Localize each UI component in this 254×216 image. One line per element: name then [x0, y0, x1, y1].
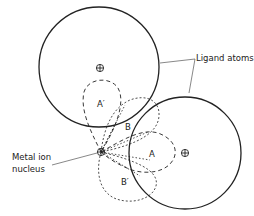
ligand-atoms-label: Ligand atoms — [196, 53, 254, 63]
metal-ion-label-line2: nucleus — [12, 164, 45, 174]
orbital-a-prime — [83, 80, 121, 152]
orbital-a-prime-label: A′ — [97, 99, 105, 109]
orbital-a — [101, 132, 175, 172]
orbital-a-label: A — [149, 149, 155, 159]
leader-lines — [52, 59, 195, 165]
ligand-lower-nucleus-icon — [181, 149, 188, 156]
orbital-b-label: B — [125, 122, 131, 132]
orbital-b-prime-label: B′ — [121, 177, 129, 187]
metal-ion-label-line1: Metal ion — [12, 152, 51, 162]
ligand-upper-nucleus-icon — [96, 64, 103, 71]
ligand-atom-upper — [39, 7, 159, 127]
